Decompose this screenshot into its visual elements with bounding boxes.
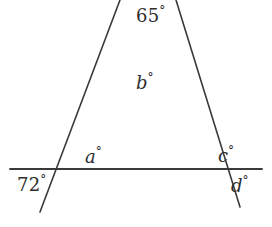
angle-value-65: 65 [136, 5, 159, 26]
degree-symbol-b: ° [148, 71, 154, 85]
angle-value-b: b [136, 72, 148, 93]
angle-label-left-above-a: a° [85, 148, 102, 166]
angle-label-right-below-d: d° [231, 177, 249, 195]
angle-value-72: 72 [17, 174, 40, 195]
angle-value-c: c [218, 145, 228, 166]
degree-symbol-72: ° [40, 173, 46, 187]
angle-label-left-below-72: 72° [17, 176, 47, 194]
left-transversal-line [40, 0, 120, 212]
degree-symbol-a: ° [96, 145, 102, 159]
angle-label-interior-b: b° [136, 74, 154, 92]
degree-symbol-apex: ° [159, 4, 165, 18]
angle-label-apex-65: 65° [136, 7, 166, 25]
degree-symbol-c: ° [228, 144, 234, 158]
angle-label-right-above-c: c° [218, 147, 234, 165]
angle-value-a: a [85, 146, 96, 167]
degree-symbol-d: ° [243, 174, 249, 188]
geometry-figure: 65° b° a° 72° c° d° [0, 0, 272, 227]
angle-value-d: d [231, 175, 243, 196]
